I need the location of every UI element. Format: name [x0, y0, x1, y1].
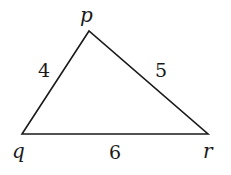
- vertex-label-r: r: [203, 139, 214, 163]
- triangle-pqr: [22, 31, 208, 134]
- triangle-diagram: p q r 4 5 6: [0, 0, 231, 175]
- side-label-qr: 6: [109, 141, 121, 163]
- vertex-label-p: p: [80, 3, 93, 27]
- side-label-pr: 5: [155, 59, 167, 81]
- side-label-qp: 4: [38, 59, 50, 81]
- vertex-label-q: q: [12, 139, 25, 163]
